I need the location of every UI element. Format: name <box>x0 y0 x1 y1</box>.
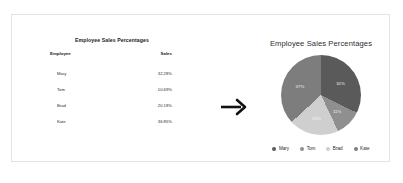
pie-slice-label-tom: 11% <box>333 109 341 114</box>
table-header-row: Employee Sales <box>48 51 176 65</box>
pie-slice-label-kate: 37% <box>296 83 305 88</box>
table-row: Tom 10.69% <box>48 81 176 97</box>
legend-label: Brad <box>333 146 343 151</box>
pie-chart-panel: Employee Sales Percentages 32% 11% 20% 3… <box>248 37 394 163</box>
pie-plot-area: 32% 11% 20% 37% <box>248 55 394 139</box>
cell-sales: 20.18% <box>119 97 176 113</box>
pie-slice-label-brad: 20% <box>312 115 321 120</box>
table-row: Brad 20.18% <box>48 97 176 113</box>
sales-table-panel: Employee Sales Percentages Employee Sale… <box>48 37 176 129</box>
table-title: Employee Sales Percentages <box>48 37 176 43</box>
cell-employee: Brad <box>48 97 119 113</box>
legend-swatch-icon <box>326 147 330 151</box>
screenshot-root: Employee Sales Percentages Employee Sale… <box>0 0 403 183</box>
arrow-right-icon <box>219 97 249 117</box>
legend-item-kate[interactable]: Kate <box>354 146 370 151</box>
table-row: Kate 36.85% <box>48 113 176 129</box>
table-row: Mary 32.28% <box>48 65 176 81</box>
cell-sales: 32.28% <box>119 65 176 81</box>
pie-graphic <box>281 55 361 135</box>
legend-swatch-icon <box>354 147 358 151</box>
table-body: Mary 32.28% Tom 10.69% Brad 20.18% Kate … <box>48 65 176 129</box>
column-header-sales: Sales <box>119 51 176 65</box>
content-card: Employee Sales Percentages Employee Sale… <box>11 14 390 162</box>
pie-slice-label-mary: 32% <box>336 80 345 85</box>
cell-employee: Tom <box>48 81 119 97</box>
legend-swatch-icon <box>272 147 276 151</box>
legend-label: Kate <box>360 146 369 151</box>
cell-employee: Kate <box>48 113 119 129</box>
legend-item-brad[interactable]: Brad <box>326 146 342 151</box>
cell-employee: Mary <box>48 65 119 81</box>
chart-title: Employee Sales Percentages <box>248 39 394 48</box>
legend-item-mary[interactable]: Mary <box>272 146 289 151</box>
sales-table: Employee Sales Mary 32.28% Tom 10.69% Br… <box>48 51 176 129</box>
legend-label: Mary <box>279 146 289 151</box>
legend-swatch-icon <box>300 147 304 151</box>
column-header-employee: Employee <box>48 51 119 65</box>
legend-item-tom[interactable]: Tom <box>300 146 315 151</box>
legend-label: Tom <box>307 146 316 151</box>
cell-sales: 10.69% <box>119 81 176 97</box>
chart-legend: Mary Tom Brad Kate <box>248 146 394 151</box>
cell-sales: 36.85% <box>119 113 176 129</box>
